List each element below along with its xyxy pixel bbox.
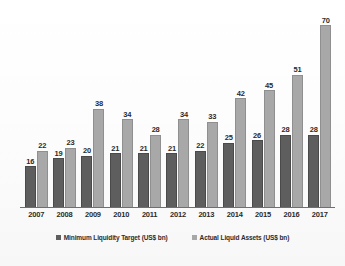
x-axis-tick-labels: 2007200820092010201120122013201420152016… — [22, 210, 334, 219]
bar-group: 2134 — [164, 12, 192, 208]
bar — [65, 148, 76, 208]
bar-value-label: 42 — [237, 90, 245, 98]
bar-column: 33 — [207, 12, 218, 208]
bar-column: 38 — [93, 12, 104, 208]
bar-value-label: 34 — [123, 111, 131, 119]
chart-legend: Minimum Liquidity Target (US$ bn)Actual … — [0, 234, 345, 241]
bar-column: 16 — [25, 12, 36, 208]
bar — [37, 151, 48, 208]
bar — [93, 109, 104, 208]
bar — [207, 122, 218, 208]
legend-item-label: Actual Liquid Assets (US$ bn) — [200, 234, 290, 241]
bar — [166, 153, 177, 208]
bar-value-label: 51 — [293, 66, 301, 74]
x-axis-tick-label: 2013 — [192, 210, 220, 219]
x-axis-line — [20, 207, 335, 208]
bar-group: 2645 — [249, 12, 277, 208]
bar-group: 2542 — [221, 12, 249, 208]
bar-value-label: 34 — [180, 111, 188, 119]
x-axis-tick-label: 2007 — [22, 210, 50, 219]
bar-chart: 1622192320382134212821342233254226452851… — [0, 0, 345, 266]
bar — [53, 158, 64, 208]
bar-column: 20 — [81, 12, 92, 208]
bar-value-label: 19 — [55, 150, 63, 158]
bar — [235, 98, 246, 208]
bar-group: 2233 — [192, 12, 220, 208]
bar-column: 25 — [223, 12, 234, 208]
bar-value-label: 21 — [111, 145, 119, 153]
bar-column: 70 — [320, 12, 331, 208]
bar — [195, 151, 206, 208]
bar-column: 28 — [280, 12, 291, 208]
legend-item[interactable]: Minimum Liquidity Target (US$ bn) — [56, 234, 168, 241]
x-axis-tick-label: 2012 — [164, 210, 192, 219]
bar-column: 51 — [292, 12, 303, 208]
bar-group: 2134 — [107, 12, 135, 208]
bar — [81, 156, 92, 208]
bar-column: 45 — [264, 12, 275, 208]
bar-column: 28 — [150, 12, 161, 208]
bar — [292, 75, 303, 208]
bar-column: 42 — [235, 12, 246, 208]
x-axis-tick-label: 2009 — [79, 210, 107, 219]
bar — [280, 135, 291, 208]
bar-column: 34 — [178, 12, 189, 208]
bar — [25, 166, 36, 208]
bar-column: 22 — [195, 12, 206, 208]
bar-column: 19 — [53, 12, 64, 208]
bar-value-label: 33 — [208, 113, 216, 121]
bar — [110, 153, 121, 208]
x-axis-tick-label: 2017 — [306, 210, 334, 219]
bar-group: 1923 — [50, 12, 78, 208]
bar — [223, 143, 234, 208]
square-dark-icon — [56, 235, 61, 240]
bar-value-label: 16 — [26, 158, 34, 166]
bar-value-label: 22 — [38, 142, 46, 150]
bar — [150, 135, 161, 208]
bar-value-label: 28 — [310, 126, 318, 134]
bar-value-label: 23 — [67, 139, 75, 147]
bar-groups: 1622192320382134212821342233254226452851… — [22, 12, 334, 208]
x-axis-tick-label: 2016 — [277, 210, 305, 219]
bar — [178, 119, 189, 208]
x-axis-tick-label: 2011 — [135, 210, 163, 219]
bar-value-label: 26 — [253, 132, 261, 140]
bar-value-label: 21 — [140, 145, 148, 153]
bar — [264, 90, 275, 208]
bar-value-label: 21 — [168, 145, 176, 153]
bar-group: 2038 — [79, 12, 107, 208]
bar-column: 21 — [138, 12, 149, 208]
bar — [320, 25, 331, 208]
bar-value-label: 28 — [281, 126, 289, 134]
bar-column: 26 — [252, 12, 263, 208]
bar — [122, 119, 133, 208]
x-axis-tick-label: 2015 — [249, 210, 277, 219]
x-axis-tick-label: 2010 — [107, 210, 135, 219]
bar-group: 1622 — [22, 12, 50, 208]
bar-group: 2870 — [306, 12, 334, 208]
bar — [138, 153, 149, 208]
bar-column: 22 — [37, 12, 48, 208]
bar-value-label: 45 — [265, 82, 273, 90]
bar-group: 2128 — [135, 12, 163, 208]
legend-item[interactable]: Actual Liquid Assets (US$ bn) — [192, 234, 290, 241]
square-light-icon — [192, 235, 197, 240]
bar — [308, 135, 319, 208]
legend-item-label: Minimum Liquidity Target (US$ bn) — [64, 234, 168, 241]
bar-value-label: 38 — [95, 100, 103, 108]
bar-value-label: 20 — [83, 147, 91, 155]
x-axis-tick-label: 2014 — [221, 210, 249, 219]
x-axis-tick-label: 2008 — [50, 210, 78, 219]
bar-column: 21 — [110, 12, 121, 208]
bar-value-label: 28 — [152, 126, 160, 134]
bar-value-label: 25 — [225, 134, 233, 142]
bar-value-label: 22 — [196, 142, 204, 150]
bar-column: 23 — [65, 12, 76, 208]
bar-column: 34 — [122, 12, 133, 208]
bar-value-label: 70 — [322, 17, 330, 25]
bar-column: 28 — [308, 12, 319, 208]
bar — [252, 140, 263, 208]
bar-column: 21 — [166, 12, 177, 208]
plot-area: 1622192320382134212821342233254226452851… — [22, 12, 334, 208]
bar-group: 2851 — [277, 12, 305, 208]
